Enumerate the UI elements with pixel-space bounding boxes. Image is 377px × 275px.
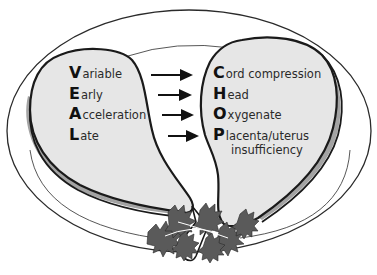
chop-item-placenta: Placenta/uterus (213, 128, 309, 143)
veal-item-variable: Variable (69, 66, 122, 81)
mnemonic-letter: H (213, 84, 226, 103)
mnemonic-word: lacenta/uterus (226, 129, 309, 143)
mnemonic-letter: A (69, 104, 81, 123)
mnemonic-word: cceleration (82, 108, 146, 122)
mnemonic-letter: O (213, 104, 227, 123)
chop-item-placenta-continuation: insufficiency (231, 143, 303, 157)
mnemonic-letter: P (213, 125, 225, 144)
mnemonic-letter: L (69, 125, 79, 144)
chop-item-oxygenate: Oxygenate (213, 107, 282, 122)
mnemonic-letter: V (69, 63, 81, 82)
veal-item-late: Late (69, 128, 99, 143)
mnemonic-word: ate (80, 129, 99, 143)
chop-item-head: Head (213, 87, 249, 102)
mnemonic-word: arly (81, 88, 103, 102)
mnemonic-word: ead (227, 88, 248, 102)
veal-item-early: Early (69, 87, 103, 102)
chop-item-cord-compression: Cord compression (213, 66, 321, 81)
mnemonic-word: ord compression (226, 67, 321, 81)
veal-item-acceleration: Acceleration (69, 107, 146, 122)
mnemonic-letter: E (69, 84, 80, 103)
mnemonic-word: xygenate (228, 108, 282, 122)
veal-chop-diagram: Variable Early Acceleration Late Cord co… (0, 0, 377, 275)
diagram-graphics (0, 0, 377, 275)
mnemonic-letter: C (213, 63, 225, 82)
mnemonic-word: ariable (82, 67, 122, 81)
